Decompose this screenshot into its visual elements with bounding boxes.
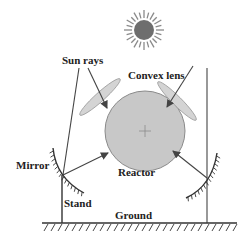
solar-reactor-diagram: Sun rays Convex lens Mirror Reactor Stan… [0, 0, 246, 240]
ground [42, 223, 237, 231]
label-sun-rays: Sun rays [62, 54, 104, 66]
label-mirror: Mirror [16, 159, 50, 171]
label-convex-lens: Convex lens [128, 69, 185, 81]
mirror-left [53, 148, 84, 193]
mirror-right [186, 153, 217, 198]
label-ground: Ground [115, 209, 152, 221]
label-stand: Stand [64, 197, 92, 209]
sun-icon [124, 10, 164, 50]
label-reactor: Reactor [118, 166, 155, 178]
